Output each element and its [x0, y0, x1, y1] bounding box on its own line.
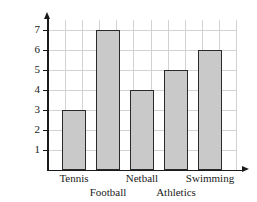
y-tick-label: 7 — [26, 24, 40, 35]
bar-tennis — [62, 110, 86, 170]
y-tick-label: 5 — [26, 64, 40, 75]
gridline-horizontal — [48, 30, 236, 31]
y-tick-label: 6 — [26, 44, 40, 55]
bar-netball — [130, 90, 154, 170]
x-axis-line — [47, 170, 243, 172]
x-label-athletics: Athletics — [136, 186, 216, 199]
bar-swimming — [198, 50, 222, 170]
bar-football — [96, 30, 120, 170]
y-tick-label: 3 — [26, 104, 40, 115]
y-tick-label: 2 — [26, 124, 40, 135]
y-tick-mark — [43, 70, 49, 71]
y-axis-line — [47, 16, 49, 171]
bar-athletics — [164, 70, 188, 170]
gridline-vertical — [236, 20, 237, 170]
y-tick-mark — [43, 130, 49, 131]
x-label-swimming: Swimming — [170, 172, 250, 185]
y-tick-mark — [43, 110, 49, 111]
y-tick-mark — [43, 150, 49, 151]
y-tick-label: 1 — [26, 144, 40, 155]
y-tick-label: 4 — [26, 84, 40, 95]
bar-chart: Number of children 1234567 TennisFootbal… — [0, 0, 257, 202]
y-axis-arrow-icon — [44, 12, 50, 19]
plot-area — [48, 20, 236, 170]
y-tick-mark — [43, 30, 49, 31]
y-tick-mark — [43, 90, 49, 91]
y-tick-mark — [43, 50, 49, 51]
